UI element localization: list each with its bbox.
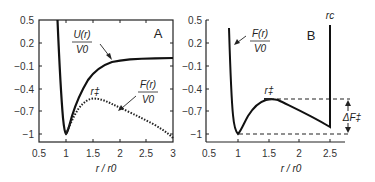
x-tick-label: 1.5 [86, 148, 100, 159]
x-tick-label: 3 [170, 148, 176, 159]
y-tick-label: −0.7 [14, 106, 34, 117]
f-curve-dotted [66, 99, 173, 139]
f-label-denominator: V0 [142, 94, 155, 105]
f-arrow-icon [118, 96, 136, 111]
f-curve-label: F(r) V0 [138, 79, 158, 105]
x-tick-label: 1.5 [262, 148, 276, 159]
u-arrow-icon [100, 44, 112, 60]
x-tick-label: 1 [235, 148, 241, 159]
panel-a-y-tick-labels: 0.5 0.2 −0.1 −0.4 −0.7 −1 [14, 15, 34, 140]
x-tick-label: 2.5 [139, 148, 153, 159]
panel-a-label: A [154, 26, 163, 41]
y-tick-label: −0.4 [182, 84, 202, 95]
cutoff-label: rc [326, 10, 334, 21]
y-tick-label: −0.1 [14, 61, 34, 72]
y-tick-label: −1 [23, 129, 35, 140]
panel-a-x-axis-label: r / r0 [96, 163, 117, 174]
u-curve-label: U(r) V0 [72, 29, 92, 55]
figure: 0.5 0.2 −0.1 −0.4 −0.7 −1 0.5 1 1.5 2 2.… [0, 0, 375, 182]
panel-b-arrow-icon [234, 36, 246, 45]
y-tick-label: −1 [191, 129, 203, 140]
y-tick-label: 0.5 [188, 15, 202, 26]
y-tick-label: 0.2 [20, 38, 34, 49]
y-tick-label: −0.7 [182, 106, 202, 117]
f-label-numerator: F(r) [140, 79, 156, 90]
u-label-numerator: U(r) [73, 29, 90, 40]
panel-a-x-tick-labels: 0.5 1 1.5 2 2.5 3 [32, 148, 176, 159]
panel-b-x-axis-label: r / r0 [281, 163, 302, 174]
u-label-denominator: V0 [76, 44, 89, 55]
panel-a: 0.5 0.2 −0.1 −0.4 −0.7 −1 0.5 1 1.5 2 2.… [14, 15, 176, 174]
panel-b-y-tick-labels: 0.5 0.2 −0.1 −0.4 −0.7 −1 [182, 15, 202, 140]
panel-b-x-tick-labels: 0.5 1 1.5 2 2.5 [202, 148, 337, 159]
panel-b-label: B [307, 28, 316, 43]
panel-a-barrier-label: r‡ [91, 86, 100, 97]
x-tick-label: 1 [63, 148, 69, 159]
y-tick-label: −0.1 [182, 61, 202, 72]
y-tick-label: −0.4 [14, 84, 34, 95]
x-tick-label: 2.5 [323, 148, 337, 159]
x-tick-label: 2 [117, 148, 123, 159]
x-tick-label: 0.5 [202, 148, 216, 159]
f-label-denominator: V0 [254, 43, 267, 54]
delta-f-label: ΔF‡ [342, 112, 362, 123]
x-tick-label: 0.5 [32, 148, 46, 159]
y-tick-label: 0.5 [20, 15, 34, 26]
x-tick-label: 2 [296, 148, 302, 159]
y-tick-label: 0.2 [188, 38, 202, 49]
f-label-numerator: F(r) [252, 28, 268, 39]
panel-b: 0.5 0.2 −0.1 −0.4 −0.7 −1 0.5 1 1.5 2 2.… [182, 10, 361, 174]
panel-b-f-label: F(r) V0 [250, 28, 270, 54]
panel-b-barrier-label: r‡ [265, 85, 274, 96]
